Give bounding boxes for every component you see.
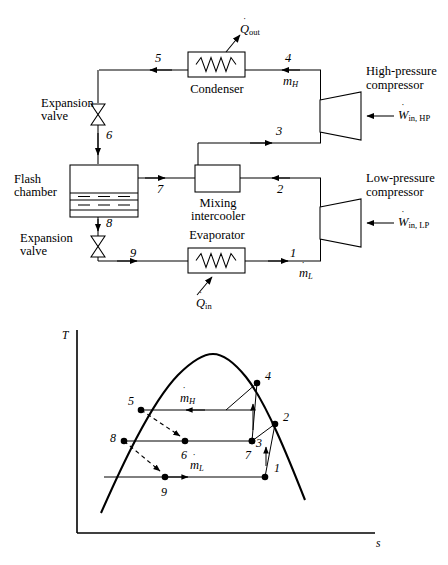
m-dot-l-label-schematic: ˙mL (299, 266, 313, 281)
schematic-state-2: 2 (277, 182, 283, 196)
ts-label-7: 7 (245, 449, 251, 462)
ts-dot-7 (249, 438, 256, 445)
schematic-state-9: 9 (130, 246, 136, 260)
saturation-dome (101, 354, 305, 513)
schematic-state-1: 1 (290, 246, 296, 260)
lp-compressor-label-line2: compressor (366, 185, 424, 199)
ts-label-3: 3 (256, 437, 262, 450)
ts-dashed-8-to-9 (124, 441, 160, 471)
hp-compressor-label-line2: compressor (366, 78, 424, 92)
ts-axes (77, 330, 375, 533)
ts-dot-2 (272, 421, 279, 428)
w-in-lp-label: ˙Win, LP (398, 215, 429, 230)
ts-label-6: 6 (181, 449, 187, 462)
ts-dot-4 (254, 380, 261, 387)
expansion-valve-top-label-line1: Expansion (41, 96, 94, 110)
expansion-valve-top-label-line2: valve (41, 109, 68, 123)
lp-compressor-label-line1: Low-pressure (366, 171, 435, 185)
m-dot-h-label-schematic: ˙mH (283, 74, 298, 89)
ts-dashed-5-to-6 (141, 410, 180, 436)
expansion-valve-bottom-label-line2: valve (20, 244, 47, 258)
evaporator-label: Evaporator (185, 228, 249, 242)
ts-x-axis-label: s (376, 537, 380, 550)
schematic-state-6: 6 (106, 128, 112, 142)
hp-compressor-label-line1: High-pressure (366, 64, 437, 78)
schematic-state-8: 8 (106, 216, 112, 230)
ts-label-2: 2 (283, 411, 289, 424)
ts-dot-5 (138, 407, 145, 414)
q-out-label: ˙Qout (240, 22, 260, 37)
ts-label-9: 9 (161, 486, 167, 499)
ts-m-dot-h-label: ˙mH (180, 391, 195, 406)
expansion-valve-bottom-label-line1: Expansion (20, 231, 73, 245)
flash-chamber-label-line2: chamber (14, 185, 57, 199)
ts-label-5: 5 (128, 395, 134, 408)
condenser-label: Condenser (185, 82, 249, 96)
schematic-state-4: 4 (285, 51, 291, 65)
ts-dot-8 (121, 438, 128, 445)
flash-chamber-label-line1: Flash (14, 172, 41, 186)
schematic-state-3: 3 (276, 124, 282, 138)
ts-dot-1 (262, 474, 269, 481)
ts-label-1: 1 (274, 462, 280, 475)
ts-label-8: 8 (110, 432, 116, 445)
ts-m-dot-l-label: ˙mL (190, 458, 204, 473)
w-in-hp-label: ˙Win, HP (398, 108, 430, 123)
figure-root: ˙Qout 5 4 6 3 7 2 8 9 1 ˙mH ˙mL Condense… (0, 0, 448, 565)
mixing-intercooler-label-line2: intercooler (178, 209, 258, 223)
q-in-label: ˙Qin (196, 296, 212, 311)
ts-line-4-to-5 (226, 383, 257, 410)
mixing-intercooler-label-line1: Mixing (185, 196, 251, 210)
ts-label-4: 4 (265, 370, 271, 383)
schematic-state-7: 7 (157, 182, 163, 196)
ts-dot-6 (182, 438, 189, 445)
ts-y-axis-label: T (62, 329, 68, 342)
ts-dot-9 (162, 474, 169, 481)
schematic-state-5: 5 (155, 51, 161, 65)
